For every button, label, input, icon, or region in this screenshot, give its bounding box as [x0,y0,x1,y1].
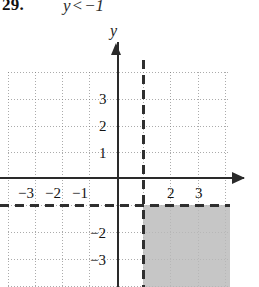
y-tick-label-1: 1 [99,146,107,161]
x-axis-arrow-icon [232,172,245,184]
x-axis-line [0,177,244,179]
y-axis-line [117,42,119,287]
grid-line-horizontal [8,99,230,100]
x-tick-label-2: 2 [167,186,175,201]
inequality-right: −1 [84,0,104,15]
grid-line-vertical [62,72,63,287]
y-axis-arrow-icon [111,43,121,55]
figure-container: 29. y<−1 y [0,0,259,287]
x-tick-label-3: 3 [195,186,203,201]
solution-shaded-region [143,205,230,287]
grid-line-vertical [35,72,36,287]
inequality-left: y [63,0,71,15]
problem-number: 29. [2,0,24,15]
y-tick-label-3: 3 [99,92,107,107]
y-axis-label: y [110,22,117,40]
y-tick-label-2: 2 [99,119,107,134]
grid-line-vertical [8,72,9,287]
y-tick-label-neg-2: −2 [90,226,106,241]
boundary-line-vertical [142,60,145,287]
boundary-line-horizontal [0,204,230,207]
grid-line-horizontal [8,152,230,153]
grid-line-horizontal [8,72,230,73]
x-tick-label-neg-3: −3 [18,186,34,201]
x-tick-label-neg-2: −2 [45,186,61,201]
coordinate-plane [8,72,230,287]
problem-inequality: y<−1 [63,0,104,16]
y-tick-label-neg-3: −3 [90,253,106,268]
x-tick-label-neg-1: −1 [72,186,88,201]
grid-line-horizontal [8,126,230,127]
inequality-operator: < [71,0,85,15]
